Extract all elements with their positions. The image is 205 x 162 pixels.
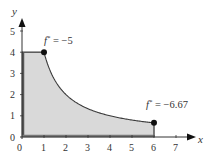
feasible-region [22, 52, 154, 137]
x-tick-label: 2 [63, 142, 68, 153]
x-tick-label: 5 [129, 142, 134, 153]
x-axis-label: x [197, 133, 203, 145]
x-tick-label: 0 [17, 142, 22, 153]
objective-value-annotation: f* = −6.67 [146, 98, 188, 110]
objective-value-annotation: f* = −5 [44, 34, 73, 46]
y-tick-label: 5 [10, 26, 15, 37]
x-tick-label: 7 [173, 142, 178, 153]
x-axis-arrow-icon [187, 134, 196, 141]
y-ticks: 012345 [10, 26, 23, 143]
x-tick-label: 1 [41, 142, 46, 153]
chart: 01234567 012345 x y f* = −5f* = −6.67 [0, 0, 205, 162]
y-tick-label: 1 [10, 110, 15, 121]
y-tick-label: 3 [10, 68, 15, 79]
y-axis-label: y [11, 5, 17, 17]
x-ticks: 01234567 [17, 135, 178, 153]
y-tick-label: 2 [10, 89, 15, 100]
x-tick-label: 4 [107, 142, 112, 153]
x-tick-label: 6 [151, 142, 156, 153]
x-tick-label: 3 [85, 142, 90, 153]
y-tick-label: 4 [10, 47, 15, 58]
optimal-point-marker [151, 120, 157, 126]
y-tick-label: 0 [10, 132, 15, 143]
optimal-point-marker [41, 49, 47, 55]
y-axis-arrow-icon [19, 18, 26, 27]
